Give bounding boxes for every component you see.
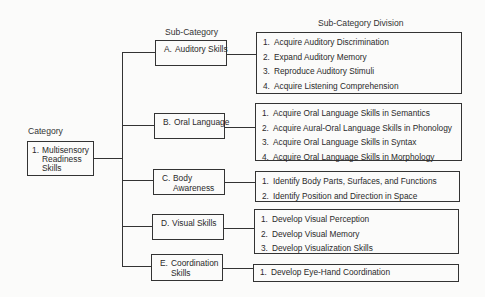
- sub-category-box-e: E.Coordination Skills: [151, 254, 223, 281]
- link-a: [226, 54, 256, 55]
- sub-category-letter: B.: [163, 117, 171, 127]
- division-item: 3.Develop Visualization Skills: [261, 241, 373, 256]
- division-box-e: 1.Develop Eye-Hand Coordination: [253, 264, 459, 282]
- division-item: 4.Acquire Oral Language Skills in Morpho…: [262, 150, 452, 165]
- category-connector: [93, 158, 123, 159]
- division-item: 1.Develop Eye-Hand Coordination: [260, 265, 390, 280]
- division-item: 4.Acquire Listening Comprehension: [263, 79, 399, 94]
- category-label-line-3: Skills: [42, 163, 62, 173]
- sub-category-box-a: A.Auditory Skills: [155, 40, 227, 66]
- division-item: 1.Develop Visual Perception: [261, 212, 373, 227]
- division-item: 3.Reproduce Auditory Stimuli: [263, 64, 399, 79]
- division-item: 2.Identify Position and Direction in Spa…: [262, 189, 437, 204]
- division-item: 1.Acquire Auditory Discrimination: [263, 35, 399, 50]
- division-box-a: 1.Acquire Auditory Discrimination 2.Expa…: [256, 32, 462, 94]
- branch-e: [122, 266, 151, 267]
- category-number: 1.: [32, 145, 39, 155]
- sub-category-header: Sub-Category: [165, 27, 218, 37]
- division-header: Sub-Category Division: [318, 18, 404, 28]
- division-item: 1.Identify Body Parts, Surfaces, and Fun…: [262, 174, 437, 189]
- sub-category-label: Visual Skills: [172, 218, 232, 228]
- sub-category-label: Coordination Skills: [171, 258, 231, 278]
- sub-category-letter: A.: [164, 44, 172, 54]
- link-d: [223, 228, 256, 229]
- sub-category-letter: C.: [162, 173, 170, 183]
- sub-category-letter: D.: [161, 218, 169, 228]
- sub-category-label: Body Awareness: [173, 173, 233, 193]
- sub-category-label: Oral Language: [174, 117, 234, 127]
- division-item: 1.Acquire Oral Language Skills in Semant…: [262, 106, 452, 121]
- division-box-b: 1.Acquire Oral Language Skills in Semant…: [255, 103, 462, 161]
- sub-category-box-d: D.Visual Skills: [152, 214, 224, 240]
- division-box-c: 1.Identify Body Parts, Surfaces, and Fun…: [255, 171, 460, 202]
- branch-c: [122, 180, 153, 181]
- sub-category-label: Auditory Skills: [175, 44, 235, 54]
- branch-a: [122, 52, 155, 53]
- sub-category-box-c: C.Body Awareness: [153, 169, 225, 195]
- division-item: 2.Acquire Aural-Oral Language Skills in …: [262, 121, 452, 136]
- division-item: 2.Develop Visual Memory: [261, 227, 373, 242]
- sub-category-box-b: B.Oral Language: [154, 113, 225, 139]
- link-b: [224, 127, 256, 128]
- division-item: 3.Acquire Oral Language Skills in Syntax: [262, 135, 452, 150]
- division-box-d: 1.Develop Visual Perception 2.Develop Vi…: [254, 209, 459, 254]
- sub-category-letter: E.: [160, 258, 168, 268]
- division-item: 2.Expand Auditory Memory: [263, 50, 399, 65]
- branch-d: [122, 226, 152, 227]
- branch-b: [122, 125, 154, 126]
- category-header: Category: [28, 126, 63, 136]
- category-box: 1. Multisensory Readiness Skills: [27, 141, 94, 176]
